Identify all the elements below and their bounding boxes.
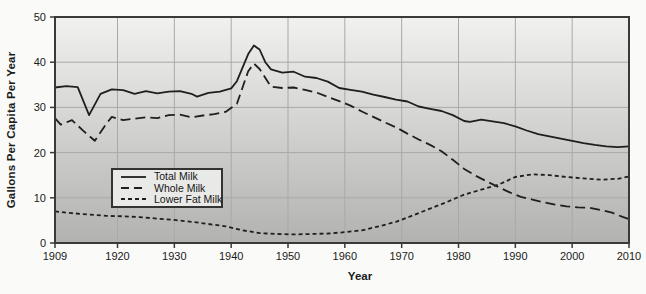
y-tick-label-40: 40 <box>34 56 46 68</box>
milk-consumption-line-chart: 0102030405019091920193019401950196019701… <box>0 0 646 294</box>
x-tick-label-1930: 1930 <box>162 250 186 262</box>
y-tick-label-50: 50 <box>34 11 46 23</box>
legend-item-whole-milk: Whole Milk <box>120 182 221 193</box>
x-tick-label-1920: 1920 <box>105 250 129 262</box>
y-tick-label-30: 30 <box>34 101 46 113</box>
y-axis-title: Gallons Per Capita Per Year <box>5 50 17 210</box>
x-tick-label-2010: 2010 <box>617 250 641 262</box>
legend-line-sample-solid <box>120 173 147 181</box>
legend-line-sample-long-dash <box>120 184 147 192</box>
legend-label: Total Milk <box>154 171 198 182</box>
x-tick-label-1990: 1990 <box>503 250 527 262</box>
chart-legend: Total Milk Whole Milk Lower Fat Milk <box>111 168 223 208</box>
x-tick-label-1970: 1970 <box>389 250 413 262</box>
x-tick-label-1960: 1960 <box>333 250 357 262</box>
y-tick-label-0: 0 <box>40 237 46 249</box>
x-tick-label-1940: 1940 <box>219 250 243 262</box>
x-tick-label-1909: 1909 <box>43 250 67 262</box>
plot-background <box>55 17 629 243</box>
legend-label: Whole Milk <box>154 183 205 194</box>
y-tick-label-10: 10 <box>34 192 46 204</box>
x-axis-title: Year <box>280 270 440 282</box>
x-tick-label-1980: 1980 <box>446 250 470 262</box>
x-tick-label-1950: 1950 <box>276 250 300 262</box>
chart-plot-area: 0102030405019091920193019401950196019701… <box>0 0 646 294</box>
legend-label: Lower Fat Milk <box>154 194 222 205</box>
legend-line-sample-short-dash <box>120 195 147 203</box>
y-tick-label-20: 20 <box>34 147 46 159</box>
legend-item-lower-fat-milk: Lower Fat Milk <box>120 194 221 205</box>
legend-item-total-milk: Total Milk <box>120 171 221 182</box>
x-tick-label-2000: 2000 <box>560 250 584 262</box>
